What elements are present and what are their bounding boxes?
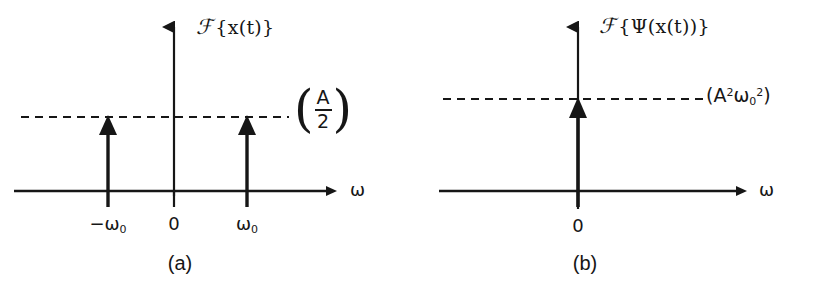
tick-label-zero-a: 0 <box>168 215 179 233</box>
tick-label-positive-omega0: ω0 <box>236 215 258 235</box>
script-f-icon: ℱ <box>196 15 215 39</box>
right-paren-b: ) <box>763 84 770 106</box>
amplitude-label-b: (A2ω02) <box>706 86 771 107</box>
panel-a-plot-graphics <box>0 0 407 291</box>
panel-caption-b: (b) <box>573 253 597 273</box>
x-axis-label-a: ω <box>350 181 365 199</box>
transform-argument-a: {x(t)} <box>215 16 274 38</box>
figure-container: ℱ{x(t)} ω ( A 2 ) −ω0 0 ω0 (a) <box>0 0 814 291</box>
panel-b: ℱ{Ψ(x(t))} ω (A2ω02) 0 (b) <box>407 0 814 291</box>
fraction-a-over-2: A 2 <box>314 88 333 132</box>
panel-b-plot-graphics <box>407 0 814 291</box>
impulse-negative-omega0 <box>99 115 117 207</box>
amplitude-label-a: ( A 2 ) <box>294 88 352 132</box>
tick-label-sub: 0 <box>120 223 127 236</box>
x-axis-label-b: ω <box>759 181 774 199</box>
tick-label-text: 0 <box>168 213 179 234</box>
amp-base-omega: ω <box>733 84 749 106</box>
fraction-denominator: 2 <box>317 111 329 132</box>
script-f-icon: ℱ <box>599 14 618 38</box>
tick-label-text: 0 <box>572 215 583 236</box>
tick-label-sub: 0 <box>251 223 258 236</box>
amp-base-A: A <box>713 84 726 106</box>
panel-a: ℱ{x(t)} ω ( A 2 ) −ω0 0 ω0 (a) <box>0 0 407 291</box>
right-paren-a: ) <box>333 89 353 130</box>
fraction-numerator: A <box>317 88 330 109</box>
transform-argument-b: {Ψ(x(t))} <box>618 15 710 37</box>
tick-label-text: −ω <box>89 213 119 234</box>
tick-label-negative-omega0: −ω0 <box>89 215 126 235</box>
transform-label-a: ℱ{x(t)} <box>196 17 274 38</box>
left-paren-a: ( <box>294 89 314 130</box>
tick-label-text: ω <box>236 213 251 234</box>
tick-label-zero-b: 0 <box>572 217 583 235</box>
impulse-positive-omega0 <box>238 115 256 207</box>
panel-caption-a: (a) <box>168 253 192 273</box>
transform-label-b: ℱ{Ψ(x(t))} <box>599 16 710 37</box>
